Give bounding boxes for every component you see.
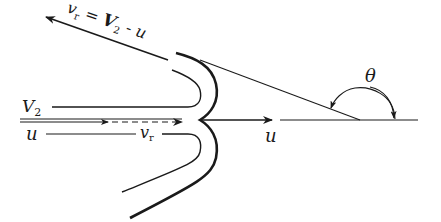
jet-stream-upper-inner (52, 70, 201, 107)
theta-label: θ (365, 65, 376, 86)
jet-stream-lower-inner (122, 134, 201, 192)
jet-vane-diagram: vr = V2 - u V2 u vr u θ (0, 0, 441, 222)
vane-speed-right-label: u (265, 125, 277, 146)
theta-angle-arc-right-head (370, 87, 394, 118)
vane-outlet-tangent-line (200, 60, 360, 120)
jet-velocity-label: V2 (22, 96, 41, 119)
theta-angle-arc (331, 88, 395, 119)
inlet-relative-velocity-label: vr (140, 123, 154, 143)
vane-speed-left-label: u (26, 123, 38, 144)
